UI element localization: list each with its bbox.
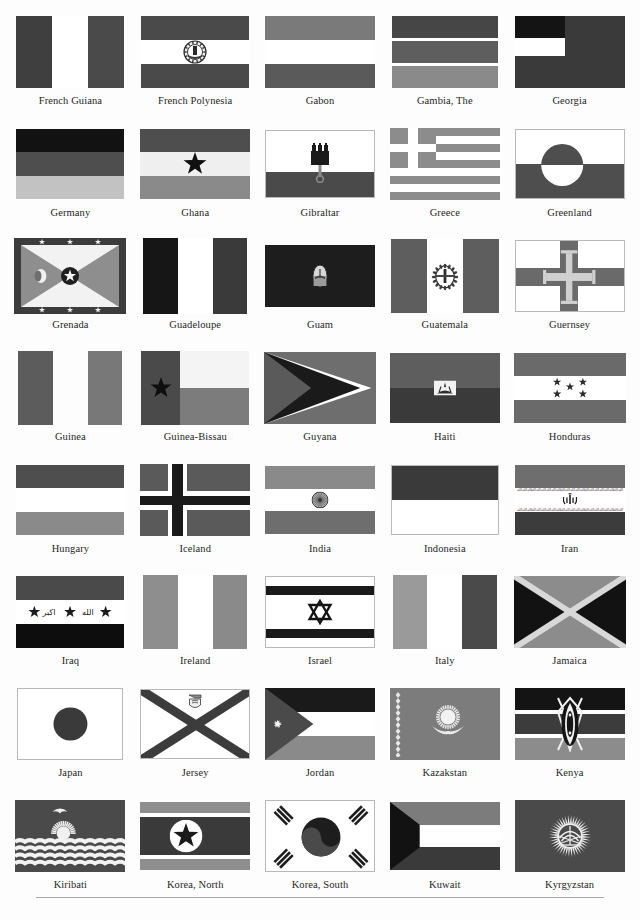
flag-caption: Guyana xyxy=(303,431,336,443)
flag-image-container xyxy=(16,462,124,538)
flag-image-container xyxy=(515,126,625,202)
flag-guinea xyxy=(18,351,122,425)
flag-guadeloupe xyxy=(143,238,247,314)
bottom-rule xyxy=(36,897,604,898)
flag-caption: Ireland xyxy=(180,655,210,667)
flag-image-container xyxy=(515,686,625,762)
flag-caption: India xyxy=(309,543,331,555)
flag-cell: Jordan xyxy=(258,686,383,798)
flag-cell: Kenya xyxy=(507,686,632,798)
flag-caption: Greece xyxy=(430,207,460,219)
flag-kiribati xyxy=(15,800,125,872)
flag-caption: Guadeloupe xyxy=(169,319,221,331)
flag-cell: Haiti xyxy=(382,350,507,462)
flag-hungary xyxy=(16,465,124,535)
flag-iceland xyxy=(140,464,250,536)
flag-image-container xyxy=(15,798,125,874)
star-of-david-icon xyxy=(307,599,333,625)
ashoka-chakra-icon xyxy=(311,492,328,509)
polynesia-emblem-icon xyxy=(182,39,208,65)
flag-image-container xyxy=(265,798,375,874)
sun-yurt-icon xyxy=(548,814,592,858)
flag-caption: Guinea-Bissau xyxy=(164,431,227,443)
flag-grid: French GuianaFrench PolynesiaGabonGambia… xyxy=(8,14,632,910)
flag-caption: Italy xyxy=(435,655,455,667)
flag-cell: Guinea-Bissau xyxy=(133,350,258,462)
flag-caption: Iran xyxy=(561,543,578,555)
flag-image-container xyxy=(140,686,250,762)
flag-caption: Honduras xyxy=(549,431,591,443)
flag-cell: Guadeloupe xyxy=(133,238,258,350)
flag-cell: Japan xyxy=(8,686,133,798)
flag-india xyxy=(265,466,375,534)
flag-cell: India xyxy=(258,462,383,574)
flag-image-container xyxy=(393,574,497,650)
flag-caption: Japan xyxy=(58,767,82,779)
flag-cell: Jamaica xyxy=(507,574,632,686)
flag-caption: Kenya xyxy=(556,767,584,779)
flag-caption: French Polynesia xyxy=(158,95,232,107)
flag-cell: Ireland xyxy=(133,574,258,686)
black-star-icon xyxy=(183,152,207,176)
flag-grenada xyxy=(14,238,126,314)
svg-text:الله: الله xyxy=(618,507,623,512)
flag-guyana xyxy=(264,352,376,424)
flag-image-container xyxy=(390,350,500,426)
flag-image-container xyxy=(265,574,375,650)
flag-caption: Indonesia xyxy=(424,543,466,555)
flag-iran: اللهاللهاللهاللهاللهاللهاللهاللهاللهالله… xyxy=(515,465,625,535)
flag-cell: Guyana xyxy=(258,350,383,462)
flag-guam xyxy=(265,245,375,307)
flag-cell: Kyrgyzstan xyxy=(507,798,632,910)
flag-cell: Greece xyxy=(382,126,507,238)
flag-gambia-the xyxy=(392,16,498,88)
svg-text:الله: الله xyxy=(82,608,94,617)
flag-caption: Gambia, The xyxy=(417,95,473,107)
flag-cell: Kiribati xyxy=(8,798,133,910)
flag-caption: Hungary xyxy=(52,543,89,555)
flag-caption: Greenland xyxy=(547,207,592,219)
flag-caption: Guam xyxy=(307,319,333,331)
flag-korea-south xyxy=(265,800,375,872)
flag-gabon xyxy=(265,16,375,88)
flag-caption: Haiti xyxy=(434,431,456,443)
flag-cell: Greenland xyxy=(507,126,632,238)
flag-caption: Jordan xyxy=(306,767,335,779)
sun-eagle-icon xyxy=(428,704,468,738)
flag-kuwait xyxy=(390,802,500,870)
flag-cell: Gibraltar xyxy=(258,126,383,238)
flag-haiti xyxy=(390,353,500,423)
flag-image-container xyxy=(18,350,122,426)
flag-jordan xyxy=(265,688,375,760)
flag-cell: Israel xyxy=(258,574,383,686)
flag-caption: Gibraltar xyxy=(301,207,340,219)
flag-ireland xyxy=(143,575,247,649)
flag-jamaica xyxy=(514,576,626,648)
svg-text:اكبر: اكبر xyxy=(42,608,56,617)
flag-image-container xyxy=(264,350,376,426)
maasai-shield-icon xyxy=(553,696,587,752)
flag-guatemala xyxy=(391,239,499,313)
flag-image-container xyxy=(14,238,126,314)
flag-caption: Kuwait xyxy=(429,879,461,891)
flag-image-container xyxy=(390,126,500,202)
flag-caption: Guernsey xyxy=(549,319,590,331)
black-star-icon xyxy=(150,377,172,399)
flag-cell: Korea, North xyxy=(133,798,258,910)
flag-caption: Grenada xyxy=(52,319,88,331)
flag-georgia xyxy=(515,16,625,88)
flag-caption: Germany xyxy=(51,207,91,219)
flag-image-container xyxy=(140,798,250,874)
flag-image-container xyxy=(265,14,375,90)
kazak-ornament-icon xyxy=(395,691,401,757)
flag-caption: Jamaica xyxy=(552,655,587,667)
iran-emblem-icon xyxy=(562,493,578,507)
flag-image-container xyxy=(265,686,375,762)
flag-image-container xyxy=(514,574,626,650)
flag-cell: Jersey xyxy=(133,686,258,798)
flag-gibraltar xyxy=(265,130,375,198)
flag-image-container xyxy=(515,238,625,314)
flag-cell: Guernsey xyxy=(507,238,632,350)
flag-cell: Kuwait xyxy=(382,798,507,910)
flag-caption: Guinea xyxy=(55,431,86,443)
